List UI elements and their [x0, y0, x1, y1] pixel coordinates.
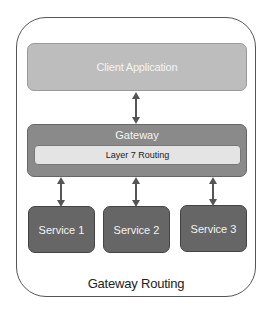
service-3-box: Service 3 — [180, 205, 247, 252]
gateway-box: Gateway Layer 7 Routing — [27, 124, 247, 177]
diagram-title: Gateway Routing — [16, 276, 256, 291]
bidirectional-arrow-icon — [131, 92, 141, 124]
service-2-label: Service 2 — [114, 224, 160, 236]
bidirectional-arrow-icon — [208, 177, 218, 206]
layer-7-routing-label: Layer 7 Routing — [106, 150, 170, 160]
client-application-box: Client Application — [27, 43, 247, 91]
bidirectional-arrow-icon — [131, 177, 141, 207]
client-application-label: Client Application — [97, 61, 178, 73]
service-2-box: Service 2 — [103, 206, 170, 253]
service-3-label: Service 3 — [191, 223, 237, 235]
gateway-label: Gateway — [28, 129, 246, 141]
service-1-box: Service 1 — [28, 206, 95, 253]
layer-7-routing-box: Layer 7 Routing — [34, 145, 241, 165]
bidirectional-arrow-icon — [56, 177, 66, 207]
service-1-label: Service 1 — [39, 224, 85, 236]
